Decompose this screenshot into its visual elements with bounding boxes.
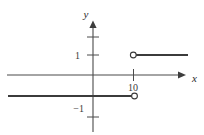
x-axis-label: x	[191, 72, 197, 84]
open-point-lower	[132, 93, 138, 99]
y-axis-label: y	[83, 8, 89, 20]
y-tick-label-minus1: −1	[73, 103, 84, 114]
y-axis-arrowhead	[89, 21, 96, 29]
open-point-upper	[130, 52, 136, 58]
x-axis-arrowhead	[178, 71, 186, 78]
coordinate-plot: y x 1 −1 10	[0, 0, 204, 135]
y-tick-label-1: 1	[75, 50, 80, 61]
graph-figure: y x 1 −1 10	[0, 0, 204, 135]
x-tick-label-10: 10	[128, 82, 138, 93]
